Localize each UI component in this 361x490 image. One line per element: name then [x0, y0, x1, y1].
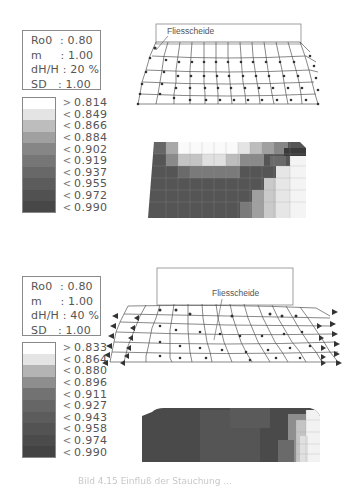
- figure-caption: Bild 4.15 Einfluß der Stauchung ...: [78, 476, 232, 486]
- panel-bottom: Ro0 : 0.80 m : 1.00 dH/H : 40 % SD : 1.0…: [0, 0, 361, 490]
- density-contour-plot: [0, 0, 361, 490]
